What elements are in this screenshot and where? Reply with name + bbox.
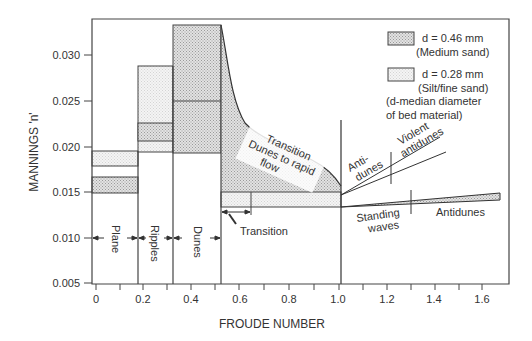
legend-sublabel-fine: (Silt/fine sand) bbox=[418, 82, 488, 94]
ripples-medium-sand-band bbox=[138, 123, 173, 141]
xtick-label: 1.4 bbox=[426, 293, 441, 305]
legend-note-line2: of bed material) bbox=[386, 109, 462, 121]
legend-swatch-fine-sand bbox=[388, 68, 414, 81]
legend-label-fine: d = 0.28 mm bbox=[422, 68, 483, 80]
ytick-label: 0.010 bbox=[52, 232, 80, 244]
ytick-label: 0.030 bbox=[52, 49, 80, 61]
xtick-label: 1.0 bbox=[330, 293, 345, 305]
xtick-label: 0 bbox=[93, 293, 99, 305]
label-transition: Transition bbox=[240, 225, 288, 237]
y-axis-label: MANNINGS 'n' bbox=[27, 112, 41, 191]
xtick-label: 0.2 bbox=[135, 293, 150, 305]
label-dunes: Dunes bbox=[192, 226, 204, 258]
xtick-label: 1.2 bbox=[379, 293, 394, 305]
ytick-label: 0.015 bbox=[52, 186, 80, 198]
plane-fine-sand-band bbox=[92, 151, 138, 166]
antidunes-lower-wedge bbox=[341, 193, 500, 207]
chart: 0.030 0.025 0.020 0.015 0.010 0.005 0 0.… bbox=[0, 0, 532, 341]
x-axis-label: FROUDE NUMBER bbox=[219, 317, 325, 331]
legend-label-medium: d = 0.46 mm bbox=[422, 32, 483, 44]
label-antidunes: Antidunes bbox=[436, 206, 485, 218]
ytick-label: 0.020 bbox=[52, 141, 80, 153]
dunes-medium-sand-band bbox=[173, 25, 221, 153]
label-ripples: Ripples bbox=[149, 225, 161, 262]
ytick-label: 0.025 bbox=[52, 95, 80, 107]
xtick-label: 1.6 bbox=[474, 293, 489, 305]
xtick-label: 0.6 bbox=[232, 293, 247, 305]
xtick-label: 0.8 bbox=[281, 293, 296, 305]
plane-medium-sand-band bbox=[92, 177, 138, 193]
legend-note-line1: (d-median diameter bbox=[386, 95, 482, 107]
legend: d = 0.46 mm (Medium sand) d = 0.28 mm (S… bbox=[386, 32, 489, 121]
transition-fine-sand-band bbox=[221, 192, 341, 207]
xtick-label: 0.4 bbox=[183, 293, 198, 305]
label-plane: Plane bbox=[110, 225, 122, 253]
legend-sublabel-medium: (Medium sand) bbox=[416, 46, 489, 58]
legend-swatch-medium-sand bbox=[388, 32, 414, 45]
ytick-label: 0.005 bbox=[52, 277, 80, 289]
